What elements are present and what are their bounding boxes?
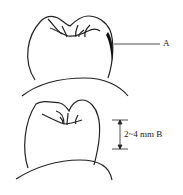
label-a: A bbox=[163, 38, 170, 48]
bottom-tooth bbox=[16, 100, 112, 180]
label-b-dimension: 2~4 mm B bbox=[124, 129, 162, 139]
tooth-diagram bbox=[0, 0, 183, 195]
